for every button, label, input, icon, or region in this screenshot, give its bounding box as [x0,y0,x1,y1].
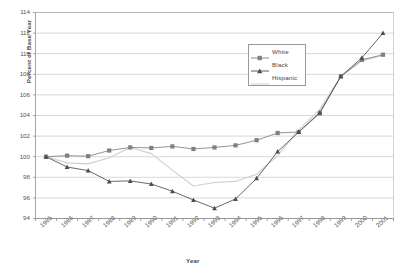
legend-swatch-white [251,48,269,56]
legend-label-black: Black [272,61,288,68]
data-point-marker [65,165,70,170]
data-point-marker [149,146,153,150]
data-point-marker [381,53,385,57]
legend-swatch-hispanic [251,74,269,82]
series-line [46,55,383,157]
legend-label-white: White [272,48,289,55]
data-point-marker [170,144,174,148]
data-point-marker [128,145,132,149]
series-hispanic [46,55,383,186]
chart-container: Percent of Base Year Year 94969810010210… [0,0,406,272]
legend-swatch-black [251,61,269,69]
legend-item-white[interactable]: White [249,45,305,58]
legend-item-black[interactable]: Black [249,58,305,71]
legend-item-hispanic[interactable]: Hispanic [249,71,305,84]
data-point-marker [65,154,69,158]
data-point-marker [276,131,280,135]
data-point-marker [191,147,195,151]
series-white [44,53,385,159]
chart-legend: White Black Hispanic [248,44,306,86]
data-point-marker [212,145,216,149]
series-black [44,31,386,211]
data-point-marker [107,148,111,152]
data-point-marker [86,154,90,158]
data-point-marker [255,138,259,142]
legend-label-hispanic: Hispanic [272,74,297,81]
data-point-marker [233,143,237,147]
plot-area [0,0,406,272]
series-line [46,55,383,186]
